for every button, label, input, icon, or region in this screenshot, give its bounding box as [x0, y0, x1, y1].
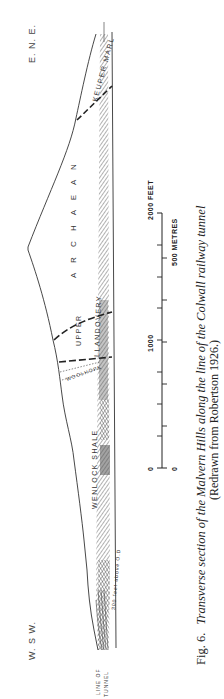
- caption-fig-number: Fig. 6.: [194, 633, 208, 665]
- direction-label-ene: E. N. E.: [27, 24, 37, 63]
- scale-label-feet-1000: 1000: [147, 334, 154, 352]
- svg-text:WENLOCK SHALE: WENLOCK SHALE: [91, 429, 98, 509]
- scale-label-metres-0: 0: [171, 467, 178, 471]
- figure-caption-source: (Redrawn from Robertson 1926.): [207, 340, 221, 500]
- svg-text:0: 0: [147, 467, 154, 471]
- scale-label-feet-2000: 2000 FEET: [147, 180, 154, 220]
- scale-bar: [157, 213, 167, 468]
- svg-text:500 METRES: 500 METRES: [171, 218, 178, 266]
- svg-text:TUNNEL: TUNNEL: [103, 671, 109, 697]
- svg-text:1000: 1000: [147, 334, 154, 352]
- svg-text:300 feet above O.D: 300 feet above O.D: [110, 548, 121, 610]
- svg-text:(Redrawn from Robertson 1926.): (Redrawn from Robertson 1926.): [207, 340, 221, 500]
- label-archaean: A R C H A E A N: [69, 160, 78, 278]
- svg-text:A R C H A E A N: A R C H A E A N: [69, 160, 78, 278]
- svg-text:Fig. 6. Transverse secti: Fig. 6. Transverse section of the Malver…: [191, 205, 208, 665]
- caption-title: Transverse section of the Malvern Hills …: [194, 205, 208, 625]
- svg-text:0: 0: [171, 467, 178, 471]
- svg-text:LINE OF: LINE OF: [95, 669, 101, 695]
- label-datum: 300 feet above O.D: [110, 548, 121, 610]
- geological-cross-section-figure: E. N. E. W. S W. KEUPER MARL A R C H A E…: [0, 0, 224, 699]
- figure-caption: Fig. 6. Transverse section of the Malver…: [191, 205, 208, 665]
- svg-text:UPPER: UPPER: [75, 314, 82, 346]
- scale-label-feet-0: 0: [147, 467, 154, 471]
- label-upper: UPPER: [75, 314, 82, 346]
- ground-surface-profile: [28, 34, 98, 650]
- svg-text:2000 FEET: 2000 FEET: [147, 180, 154, 220]
- svg-text:W. S W.: W. S W.: [27, 621, 37, 660]
- label-line-of-tunnel: LINE OF TUNNEL: [95, 669, 109, 697]
- direction-label-wsw: W. S W.: [27, 621, 37, 660]
- label-wenlock-shale: WENLOCK SHALE: [91, 429, 98, 509]
- svg-text:E. N. E.: E. N. E.: [27, 24, 37, 63]
- scale-label-metres-500: 500 METRES: [171, 218, 178, 266]
